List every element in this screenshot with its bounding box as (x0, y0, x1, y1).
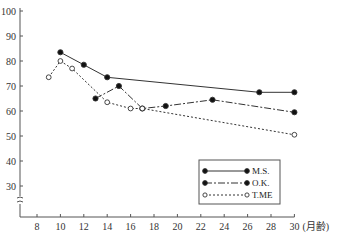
open-circle-marker-icon (46, 75, 51, 80)
filled-circle-marker-icon (210, 97, 215, 102)
open-circle-marker-icon (245, 193, 249, 197)
x-tick-label: 10 (55, 221, 65, 232)
axis-break-icon (17, 197, 23, 198)
x-tick-label: 16 (126, 221, 136, 232)
series-ms (58, 50, 297, 95)
open-circle-marker-icon (203, 193, 207, 197)
y-tick-label: 30 (6, 181, 16, 192)
axis-break-icon (17, 201, 23, 202)
y-tick-label: 60 (6, 106, 16, 117)
open-circle-marker-icon (140, 106, 145, 111)
x-tick-label: 12 (79, 221, 89, 232)
y-tick-label: 50 (6, 131, 16, 142)
x-tick-label: 24 (219, 221, 229, 232)
filled-circle-marker-icon (116, 83, 121, 88)
open-circle-marker-icon (105, 100, 110, 105)
series-line (49, 61, 295, 135)
y-tick-label: 80 (6, 56, 16, 67)
filled-circle-marker-icon (203, 169, 208, 174)
series-tme (46, 59, 296, 138)
series-layer (46, 50, 297, 138)
filled-circle-marker-icon (81, 62, 86, 67)
filled-circle-marker-icon (245, 181, 250, 186)
y-tick-label: 40 (6, 156, 16, 167)
series-line (96, 86, 295, 112)
open-circle-marker-icon (292, 132, 297, 137)
x-tick-label: 28 (266, 221, 276, 232)
y-tick-label: 100 (1, 6, 16, 17)
x-tick-label: 18 (149, 221, 159, 232)
filled-circle-marker-icon (292, 90, 297, 95)
legend-label: M.S. (252, 166, 270, 176)
x-tick-label: 20 (172, 221, 182, 232)
filled-circle-marker-icon (245, 169, 250, 174)
y-tick-label: 70 (6, 81, 16, 92)
legend-label: T.ME (252, 190, 273, 200)
series-ok (93, 83, 297, 114)
x-tick-label: 22 (196, 221, 206, 232)
x-tick-label: 8 (35, 221, 40, 232)
y-axis: 30405060708090100 (1, 6, 23, 218)
filled-circle-marker-icon (203, 181, 208, 186)
x-tick-label: 30 (289, 221, 299, 232)
line-chart: 30405060708090100 8101214161820222426283… (0, 0, 337, 239)
y-tick-label: 90 (6, 31, 16, 42)
x-axis: 81012141618202224262830(月齢) (20, 214, 329, 233)
filled-circle-marker-icon (163, 103, 168, 108)
x-axis-unit-label: (月齢) (302, 220, 329, 233)
open-circle-marker-icon (128, 106, 133, 111)
filled-circle-marker-icon (93, 96, 98, 101)
filled-circle-marker-icon (58, 50, 63, 55)
x-tick-label: 14 (102, 221, 112, 232)
open-circle-marker-icon (70, 66, 75, 71)
filled-circle-marker-icon (105, 75, 110, 80)
open-circle-marker-icon (58, 59, 63, 64)
legend: M.S.O.K.T.ME (199, 160, 280, 204)
series-line (60, 52, 294, 92)
filled-circle-marker-icon (292, 110, 297, 115)
x-tick-label: 26 (243, 221, 253, 232)
legend-label: O.K. (252, 178, 270, 188)
filled-circle-marker-icon (257, 90, 262, 95)
